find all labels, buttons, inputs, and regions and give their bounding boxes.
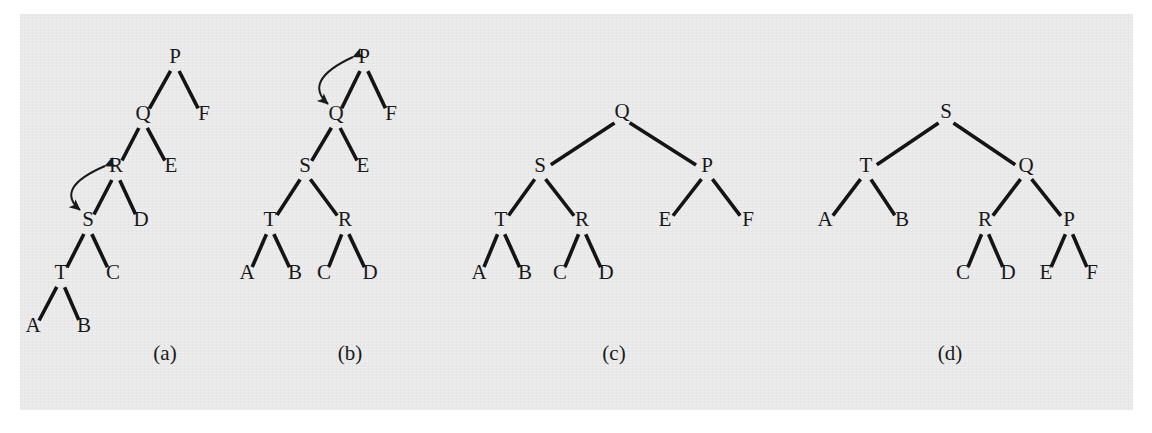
tree-edge-s-r (546, 179, 574, 216)
tree-edge-q-s (312, 128, 332, 161)
tree-node-p: P (169, 44, 181, 68)
tree-edge-s-t (67, 234, 84, 267)
tree-node-r: R (575, 207, 589, 231)
tree-node-a: A (239, 260, 255, 284)
tree-edge-q-e (147, 128, 165, 161)
tree-node-d: D (133, 207, 148, 231)
tree-node-s: S (82, 207, 94, 231)
tree-node-p: P (1063, 207, 1075, 231)
tree-edge-s-t (277, 180, 300, 216)
tree-node-s: S (940, 99, 952, 123)
tree-node-f: F (742, 207, 754, 231)
tree-node-q: Q (328, 101, 343, 125)
tree-node-d: D (1000, 260, 1015, 284)
rotation-arrows-layer (71, 57, 353, 210)
panel-caption-c: (c) (602, 341, 625, 365)
tree-node-a: A (817, 207, 833, 231)
panel-caption-d: (d) (938, 341, 963, 365)
tree-node-p: P (701, 153, 713, 177)
tree-node-d: D (598, 260, 613, 284)
tree-node-f: F (385, 101, 397, 125)
tree-node-q: Q (1018, 153, 1033, 177)
panel-caption-a: (a) (153, 341, 176, 365)
tree-edge-s-t (877, 123, 939, 165)
tree-edge-q-e (340, 128, 357, 160)
tree-node-t: T (264, 207, 277, 231)
tree-node-b: B (77, 313, 91, 337)
panel-caption-b: (b) (338, 341, 363, 365)
tree-node-p: P (358, 44, 370, 68)
tree-node-r: R (109, 153, 123, 177)
tree-node-t: T (860, 153, 873, 177)
tree-edge-s-q (953, 123, 1015, 165)
tree-edge-q-r (993, 179, 1021, 215)
tree-node-a: A (471, 260, 487, 284)
tree-edge-p-f (1073, 234, 1087, 267)
tree-edge-p-f (179, 71, 198, 108)
tree-edge-p-f (368, 71, 386, 108)
tree-node-b: B (895, 207, 909, 231)
tree-edge-q-s (551, 123, 615, 165)
figure-root: PQFRESDTCABPQFSETRABCDQSPTREFABCDSTQABRP… (0, 0, 1152, 433)
tree-node-a: A (25, 313, 41, 337)
panel-captions-layer: (a)(b)(c)(d) (153, 341, 962, 365)
tree-node-e: E (165, 153, 178, 177)
tree-edge-p-f (712, 179, 740, 215)
tree-node-t: T (55, 260, 68, 284)
tree-edge-q-r (122, 128, 139, 160)
tree-node-r: R (978, 207, 992, 231)
tree-node-e: E (659, 207, 672, 231)
tree-node-b: B (518, 260, 532, 284)
tree-edge-p-e (1051, 234, 1065, 267)
tree-node-f: F (198, 101, 210, 125)
tree-node-t: T (495, 207, 508, 231)
tree-edge-s-r (310, 179, 337, 215)
tree-node-c: C (106, 260, 120, 284)
tree-node-d: D (362, 260, 377, 284)
tree-edge-t-b (871, 179, 895, 215)
tree-edge-q-p (1032, 179, 1061, 216)
binary-tree-figure-canvas: PQFRESDTCABPQFSETRABCDQSPTREFABCDSTQABRP… (0, 0, 1152, 433)
tree-edge-s-t (509, 179, 535, 215)
tree-edge-p-q (149, 71, 170, 109)
tree-edge-t-a (833, 179, 861, 215)
tree-node-b: B (288, 260, 302, 284)
tree-node-c: C (317, 260, 331, 284)
tree-node-q: Q (614, 99, 629, 123)
tree-edge-p-q (342, 71, 360, 108)
tree-edge-p-e (673, 179, 701, 216)
tree-node-c: C (956, 260, 970, 284)
tree-node-e: E (357, 153, 370, 177)
tree-node-q: Q (135, 101, 150, 125)
tree-node-f: F (1086, 260, 1098, 284)
tree-node-r: R (338, 207, 352, 231)
tree-edge-t-a (39, 287, 57, 321)
tree-edge-r-s (94, 180, 112, 214)
tree-node-c: C (553, 260, 567, 284)
tree-edge-q-p (630, 123, 696, 165)
tree-node-e: E (1040, 260, 1053, 284)
tree-node-s: S (299, 153, 311, 177)
tree-node-s: S (534, 153, 546, 177)
